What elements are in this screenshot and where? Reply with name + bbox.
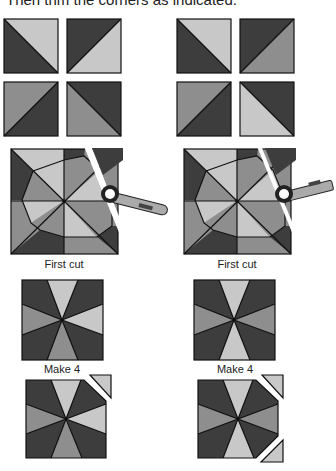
hst-square — [67, 82, 121, 136]
caption-make-right: Make 4 — [175, 363, 295, 375]
hst-square — [67, 19, 121, 73]
hst-square — [4, 82, 58, 136]
trimmed-block-left — [26, 375, 111, 458]
hst-group-left — [4, 19, 121, 136]
hst-square — [240, 19, 294, 73]
hst-square — [240, 82, 294, 136]
trimmed-block-right — [198, 375, 283, 462]
first-cut-block-right — [184, 146, 334, 254]
caption-first-cut-left: First cut — [4, 258, 124, 270]
quilt-diagram: .d{fill:#3d3d3d}.m{fill:#8e8e8e}.l{fill:… — [0, 0, 336, 471]
caption-make-left: Make 4 — [2, 363, 122, 375]
first-cut-block-left — [11, 146, 168, 254]
hst-square — [177, 19, 231, 73]
pinwheel-block-right — [194, 280, 275, 360]
pinwheel-block-left — [22, 280, 103, 360]
hst-square — [177, 82, 231, 136]
hst-group-right — [177, 19, 294, 136]
caption-first-cut-right: First cut — [177, 258, 297, 270]
hst-square — [4, 19, 58, 73]
